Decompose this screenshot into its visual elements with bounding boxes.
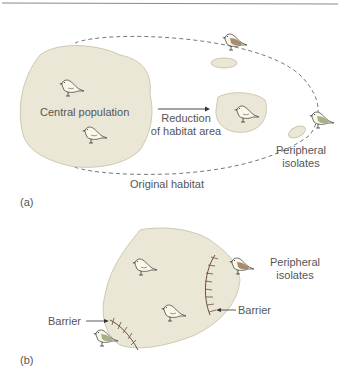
peripheral-isolates-label-a: Peripheral isolates [266, 144, 336, 170]
top-rule [2, 3, 338, 4]
reduction-label: Reduction of habitat area [146, 112, 226, 138]
panel-a-label: (a) [20, 196, 33, 209]
barrier-label-left: Barrier [48, 315, 81, 328]
isolate-patch-right [287, 124, 308, 141]
peripheral-isolates-label-b: Peripheral isolates [260, 256, 330, 282]
isolate-patch-top [211, 58, 237, 68]
original-habitat-label: Original habitat [130, 178, 204, 191]
barrier-label-right: Barrier [238, 304, 271, 317]
central-population-label: Central population [40, 106, 129, 119]
panel-b-label: (b) [20, 354, 33, 367]
